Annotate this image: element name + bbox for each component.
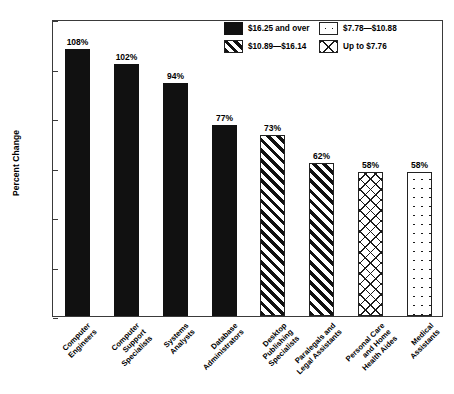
legend-label: $10.89—$16.14	[248, 42, 306, 51]
bar[interactable]: 58%	[358, 172, 383, 316]
bars-layer: 108%102%94%77%73%62%58%58%	[53, 21, 442, 316]
bar-value-label: 102%	[116, 52, 138, 62]
legend-item[interactable]: $10.89—$16.14	[224, 40, 319, 53]
bar[interactable]: 94%	[163, 83, 188, 316]
bar[interactable]: 73%	[260, 135, 285, 316]
legend-item[interactable]: $7.78—$10.88	[319, 22, 438, 35]
plot-area: 108%102%94%77%73%62%58%58%	[52, 20, 443, 317]
y-tick-mark	[53, 318, 58, 319]
legend-label: $7.78—$10.88	[343, 24, 397, 33]
legend-item[interactable]: $16.25 and over	[224, 22, 319, 35]
legend-label: Up to $7.76	[343, 42, 387, 51]
bar-value-label: 62%	[313, 151, 330, 161]
legend-swatch-solid-icon	[224, 22, 243, 35]
legend-swatch-cross-icon	[319, 40, 338, 53]
bar-value-label: 108%	[67, 37, 89, 47]
bar-value-label: 58%	[362, 160, 379, 170]
bar-value-label: 58%	[411, 160, 428, 170]
bar[interactable]: 58%	[407, 172, 432, 316]
legend-label: $16.25 and over	[248, 24, 309, 33]
legend-item[interactable]: Up to $7.76	[319, 40, 438, 53]
bar[interactable]: 102%	[114, 64, 139, 316]
legend-swatch-dots-icon	[319, 22, 338, 35]
legend-swatch-diag-icon	[224, 40, 243, 53]
bar-value-label: 94%	[167, 71, 184, 81]
bar-value-label: 73%	[264, 123, 281, 133]
bar[interactable]: 77%	[212, 125, 237, 316]
chart-legend: $16.25 and over$7.78—$10.88$10.89—$16.14…	[224, 19, 438, 55]
bar[interactable]: 62%	[309, 163, 334, 316]
y-axis-title: Percent Change	[11, 103, 21, 223]
bar[interactable]: 108%	[65, 49, 90, 316]
bar-chart: Percent Change 108%102%94%77%73%62%58%58…	[0, 0, 454, 394]
bar-value-label: 77%	[216, 113, 233, 123]
